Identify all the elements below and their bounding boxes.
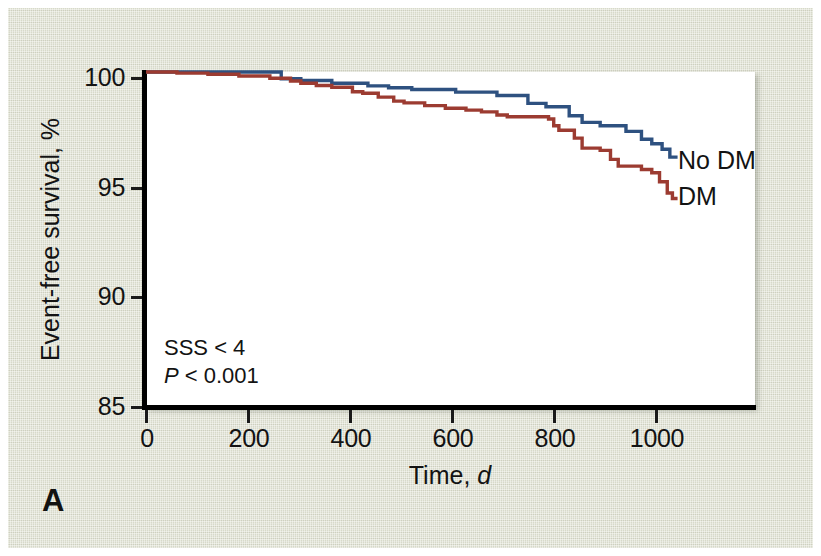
x-tick-mark-400 [349,410,352,423]
x-tick-mark-800 [553,410,556,423]
y-tick-mark-90 [131,296,142,299]
y-tick-mark-100 [131,77,142,80]
x-tick-mark-1000 [655,410,658,423]
x-tick-mark-600 [451,410,454,423]
annotation-sss: SSS < 4 [164,334,259,362]
x-tick-label-400: 400 [331,424,372,453]
annotation-pvalue-symbol: P [164,363,179,388]
y-tick-label-90: 90 [5,282,125,311]
y-tick-mark-85 [131,406,142,409]
x-tick-label-0: 0 [140,424,154,453]
y-axis-line [142,70,147,410]
x-axis-line [142,405,756,410]
y-tick-label-95: 95 [5,173,125,202]
series-label-dm: DM [678,182,717,211]
x-axis-title: Time, d [300,461,600,490]
x-tick-label-200: 200 [229,424,270,453]
annotation-pvalue-rest: < 0.001 [179,363,259,388]
statistics-annotation: SSS < 4 P < 0.001 [164,334,259,390]
x-tick-label-1000: 1000 [630,424,684,453]
panel-letter: A [42,483,64,519]
x-tick-mark-200 [247,410,250,423]
series-label-no-dm: No DM [678,146,756,175]
figure-root: 85 90 95 100 0 200 400 600 800 1000 Even… [0,0,821,556]
x-tick-mark-0 [145,410,148,423]
y-tick-mark-95 [131,187,142,190]
y-tick-label-100: 100 [5,63,125,92]
x-tick-label-600: 600 [433,424,474,453]
y-axis-title: Event-free survival, % [36,85,65,395]
x-tick-label-800: 800 [535,424,576,453]
x-axis-title-unit-italic: d [477,461,491,489]
x-axis-title-main: Time, [409,461,478,489]
y-tick-label-85: 85 [5,392,125,421]
annotation-pvalue: P < 0.001 [164,362,259,390]
